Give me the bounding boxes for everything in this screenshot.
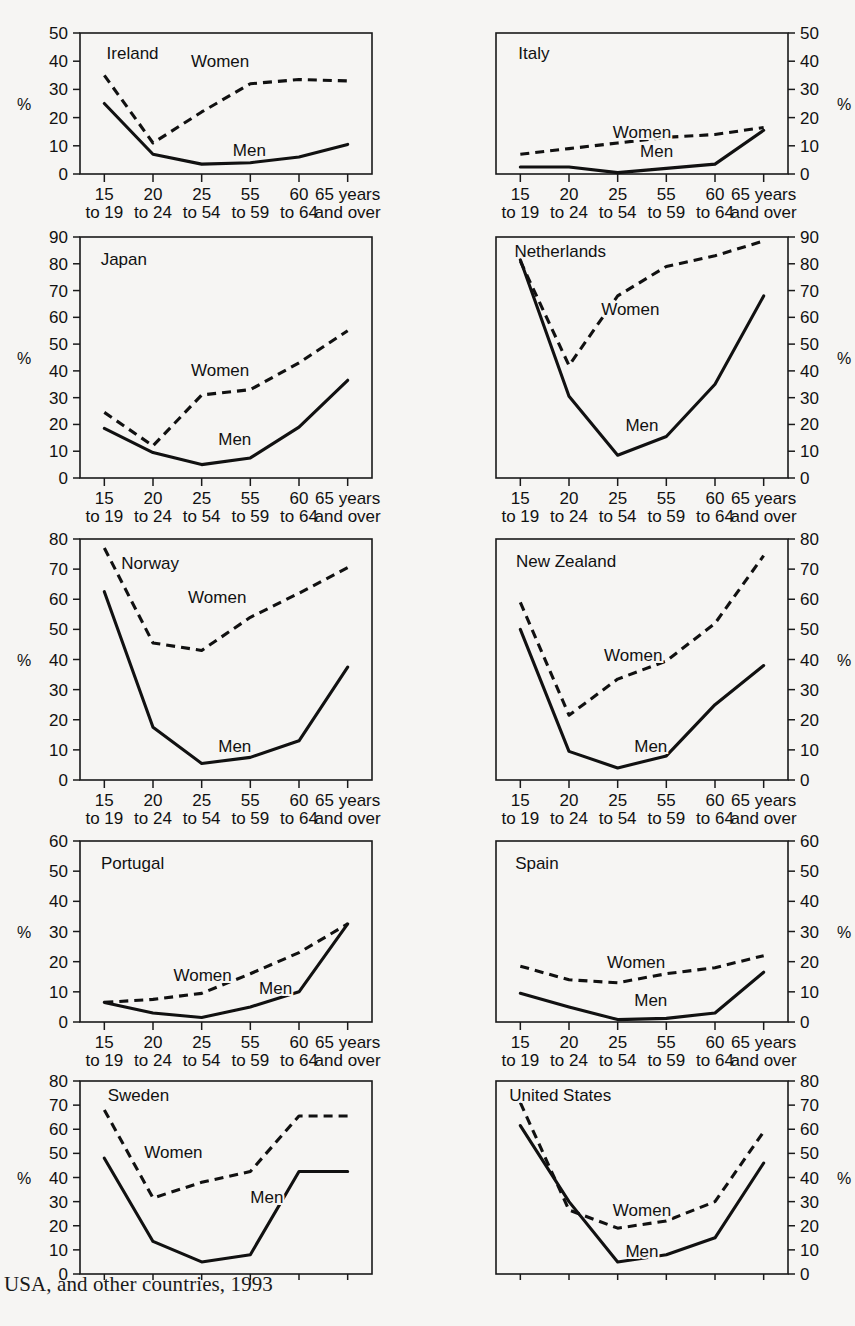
y-axis-tick-label: 30	[800, 681, 819, 700]
plot-frame	[496, 237, 788, 478]
series-label-men: Men	[640, 142, 673, 161]
x-axis-tick-label: 60	[706, 1033, 725, 1052]
y-axis-tick-label: 20	[49, 953, 68, 972]
y-axis-tick-label: 50	[800, 24, 819, 43]
y-axis-tick-label: 60	[800, 590, 819, 609]
x-axis-tick-label: 15	[511, 489, 530, 508]
figure-caption: USA, and other countries, 1993	[4, 1272, 273, 1297]
x-axis-tick-label: 20	[560, 791, 579, 810]
y-axis-tick-label: 30	[49, 389, 68, 408]
y-axis-tick-label: 80	[800, 530, 819, 549]
x-axis-tick-label: 25	[608, 1033, 627, 1052]
x-axis-tick-label: 15	[511, 791, 530, 810]
y-axis-tick-label: 30	[49, 681, 68, 700]
x-axis-tick-label: 20	[144, 185, 163, 204]
y-axis-tick-label: 70	[800, 282, 819, 301]
y-axis-tick-label: 90	[800, 228, 819, 247]
x-axis-tick-sublabel: to 24	[134, 507, 172, 526]
series-line-women	[104, 924, 347, 1002]
x-axis-tick-sublabel: to 54	[599, 1051, 637, 1070]
x-axis-tick-label: 55	[241, 1033, 260, 1052]
y-axis-tick-label: 50	[49, 24, 68, 43]
y-axis-tick-label: 0	[800, 771, 809, 790]
y-axis-tick-label: 60	[800, 308, 819, 327]
x-axis-tick-label: 20	[144, 791, 163, 810]
chart-panel-italy: 01020304050%15to 1920to 2425to 5455to 59…	[444, 24, 854, 220]
y-axis-tick-label: 80	[49, 530, 68, 549]
y-axis-tick-label: 70	[49, 560, 68, 579]
series-line-women	[104, 331, 347, 446]
y-axis-tick-label: 0	[59, 165, 68, 184]
x-axis-tick-sublabel: and over	[315, 203, 381, 222]
y-axis-tick-label: 20	[49, 109, 68, 128]
x-axis-tick-label: 20	[144, 489, 163, 508]
chart-svg: 01020304050607080%15to 1920to 2425to 545…	[14, 530, 424, 826]
x-axis-tick-sublabel: to 19	[85, 203, 123, 222]
y-axis-tick-label: 30	[800, 1193, 819, 1212]
cutoff-source-line	[180, 1306, 855, 1326]
series-label-men: Men	[259, 979, 292, 998]
y-axis-tick-label: 20	[800, 711, 819, 730]
series-line-women	[104, 75, 347, 143]
chart-svg: 01020304050%15to 1920to 2425to 5455to 59…	[14, 24, 424, 220]
y-axis-tick-label: 0	[59, 469, 68, 488]
x-axis-tick-sublabel: to 54	[183, 1051, 221, 1070]
x-axis-tick-sublabel: to 19	[501, 203, 539, 222]
chart-panel-new-zealand: 01020304050607080%15to 1920to 2425to 545…	[444, 530, 854, 826]
x-axis-tick-label: 65 years	[315, 791, 380, 810]
x-axis-tick-label: 15	[95, 489, 114, 508]
y-axis-tick-label: 0	[59, 1013, 68, 1032]
series-label-men: Men	[218, 430, 251, 449]
series-label-men: Men	[218, 737, 251, 756]
x-axis-tick-label: 55	[241, 791, 260, 810]
x-axis-tick-label: 65 years	[731, 185, 796, 204]
x-axis-tick-label: 60	[706, 791, 725, 810]
panel-title: New Zealand	[516, 552, 616, 571]
y-axis-tick-label: 10	[49, 1241, 68, 1260]
chart-svg: 0102030405060%15to 1920to 2425to 5455to …	[444, 832, 854, 1068]
x-axis-tick-label: 25	[192, 185, 211, 204]
y-axis-tick-label: 10	[49, 741, 68, 760]
x-axis-tick-label: 65 years	[731, 791, 796, 810]
series-label-women: Women	[191, 52, 249, 71]
x-axis-tick-sublabel: and over	[315, 507, 381, 526]
x-axis-tick-label: 25	[192, 1033, 211, 1052]
chart-panel-united-states: 01020304050607080%United StatesWomenMen	[444, 1072, 854, 1280]
x-axis-tick-label: 55	[241, 489, 260, 508]
x-axis-tick-label: 25	[192, 791, 211, 810]
x-axis-tick-sublabel: to 59	[231, 809, 269, 828]
x-axis-tick-sublabel: and over	[731, 507, 797, 526]
chart-panel-portugal: 0102030405060%15to 1920to 2425to 5455to …	[14, 832, 424, 1068]
y-axis-tick-label: 0	[800, 469, 809, 488]
series-label-women: Women	[191, 361, 249, 380]
chart-svg: 01020304050607080%SwedenWomenMen	[14, 1072, 424, 1278]
x-axis-tick-sublabel: to 64	[696, 1051, 734, 1070]
y-axis-unit-label: %	[17, 350, 31, 367]
y-axis-unit-label: %	[837, 1170, 851, 1187]
y-axis-tick-label: 20	[49, 1217, 68, 1236]
x-axis-tick-label: 25	[608, 185, 627, 204]
series-line-men	[104, 104, 347, 165]
y-axis-tick-label: 40	[800, 1169, 819, 1188]
y-axis-tick-label: 60	[49, 308, 68, 327]
x-axis-tick-label: 65 years	[315, 185, 380, 204]
chart-svg: 01020304050%15to 1920to 2425to 5455to 59…	[444, 24, 854, 220]
panel-title: Japan	[101, 250, 147, 269]
series-label-men: Men	[233, 141, 266, 160]
y-axis-tick-label: 80	[49, 1072, 68, 1091]
chart-panel-spain: 0102030405060%15to 1920to 2425to 5455to …	[444, 832, 854, 1068]
chart-panel-japan: 0102030405060708090%15to 1920to 2425to 5…	[14, 228, 424, 524]
chart-svg: 01020304050607080%15to 1920to 2425to 545…	[444, 530, 854, 826]
x-axis-tick-label: 60	[290, 791, 309, 810]
x-axis-tick-sublabel: to 19	[85, 809, 123, 828]
y-axis-tick-label: 20	[800, 109, 819, 128]
x-axis-tick-sublabel: to 59	[647, 1051, 685, 1070]
y-axis-tick-label: 40	[49, 892, 68, 911]
series-label-women: Women	[174, 966, 232, 985]
x-axis-tick-sublabel: to 24	[134, 809, 172, 828]
x-axis-tick-sublabel: and over	[731, 1051, 797, 1070]
y-axis-tick-label: 40	[800, 651, 819, 670]
x-axis-tick-label: 65 years	[315, 489, 380, 508]
x-axis-tick-sublabel: to 54	[183, 203, 221, 222]
y-axis-unit-label: %	[17, 924, 31, 941]
